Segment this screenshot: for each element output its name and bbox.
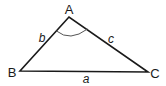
vertex-label-b: B <box>8 65 17 80</box>
angle-a-arc <box>57 29 88 36</box>
side-label-c: c <box>108 32 114 46</box>
triangle-diagram: A B C b c a <box>0 0 166 86</box>
vertex-label-c: C <box>150 66 159 81</box>
side-label-a: a <box>83 72 90 86</box>
side-label-b: b <box>39 31 46 45</box>
vertex-label-a: A <box>65 2 74 17</box>
